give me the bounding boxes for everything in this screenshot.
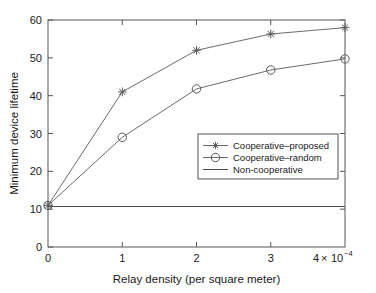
y-tick-label-50: 50: [30, 52, 42, 64]
x-tick-label-3: 3: [268, 252, 274, 264]
line-chart-svg: 60 50 40 30 20 10 0 0 1 2 3 4 × 10 −4 Re…: [0, 0, 376, 293]
x-tick-times-symbol: ×: [321, 252, 327, 264]
chart-legend: Cooperative–proposed Cooperative–random …: [198, 134, 338, 179]
data-point-proposed-0: [44, 201, 53, 210]
x-axis-title: Relay density (per square meter): [113, 273, 281, 285]
chart-figure: 60 50 40 30 20 10 0 0 1 2 3 4 × 10 −4 Re…: [0, 0, 376, 293]
x-tick-label-4-exponent: 4 × 10 −4: [313, 249, 353, 264]
legend-label-cooperative-random: Cooperative–random: [233, 152, 322, 163]
x-tick-base: 10: [331, 252, 343, 264]
x-tick-label-2: 2: [193, 252, 199, 264]
data-point-proposed-4: [341, 23, 350, 32]
x-tick-mantissa: 4: [313, 252, 319, 264]
y-axis-title: Minimum device lifetime: [8, 72, 20, 195]
y-tick-label-20: 20: [30, 165, 42, 177]
y-tick-label-0: 0: [36, 241, 42, 253]
x-tick-label-0: 0: [45, 252, 51, 264]
legend-star-marker: [212, 142, 219, 149]
legend-label-cooperative-proposed: Cooperative–proposed: [233, 140, 329, 151]
x-tick-label-1: 1: [119, 252, 125, 264]
y-tick-label-30: 30: [30, 128, 42, 140]
y-tick-label-40: 40: [30, 90, 42, 102]
x-tick-exponent: −4: [344, 249, 353, 258]
y-tick-label-10: 10: [30, 203, 42, 215]
y-tick-label-60: 60: [30, 14, 42, 26]
legend-label-non-cooperative: Non-cooperative: [233, 164, 303, 175]
data-point-proposed-3: [266, 30, 275, 39]
data-point-proposed-1: [118, 88, 127, 97]
data-point-proposed-2: [192, 46, 201, 55]
